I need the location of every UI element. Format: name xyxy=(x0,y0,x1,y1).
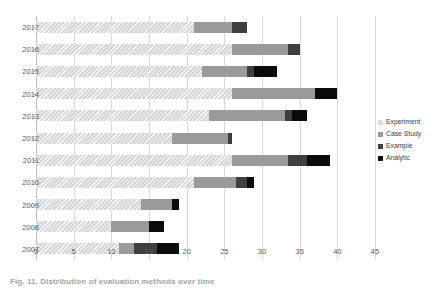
y-tick-label: 2012 xyxy=(22,134,39,143)
bar-segment-example[interactable] xyxy=(288,44,299,55)
y-tick-label: 2010 xyxy=(22,178,39,187)
bar-segment-case-study[interactable] xyxy=(194,22,232,33)
bar-segment-analytic[interactable] xyxy=(254,66,277,77)
bar-segment-analytic[interactable] xyxy=(172,199,180,210)
bar-segment-experiment[interactable] xyxy=(36,88,232,99)
bar-segment-case-study[interactable] xyxy=(111,221,149,232)
legend-item-analytic[interactable]: Analytic xyxy=(378,153,433,164)
bar-segment-experiment[interactable] xyxy=(36,199,141,210)
legend-swatch-icon xyxy=(378,120,383,125)
bar-segment-experiment[interactable] xyxy=(36,133,172,144)
gridline-x-45 xyxy=(375,16,376,260)
y-tick-label: 2017 xyxy=(22,23,39,32)
bar-segment-case-study[interactable] xyxy=(232,155,289,166)
bar-segment-example[interactable] xyxy=(288,155,307,166)
y-tick-label: 2014 xyxy=(22,89,39,98)
legend-item-experiment[interactable]: Experiment xyxy=(378,117,433,128)
x-tick-label: 35 xyxy=(295,247,303,256)
y-tick-label: 2009 xyxy=(22,200,39,209)
bar-segment-experiment[interactable] xyxy=(36,110,209,121)
bar-segment-case-study[interactable] xyxy=(209,110,284,121)
legend-item-casestudy[interactable]: Case Study xyxy=(378,129,433,140)
bar-segment-case-study[interactable] xyxy=(141,199,171,210)
bar-segment-experiment[interactable] xyxy=(36,22,194,33)
x-tick-label: 10 xyxy=(107,247,115,256)
y-tick-label: 2013 xyxy=(22,111,39,120)
bar-segment-example[interactable] xyxy=(232,22,247,33)
gridline-x-35 xyxy=(300,16,301,260)
y-tick-label: 2007 xyxy=(22,244,39,253)
bar-segment-case-study[interactable] xyxy=(172,133,229,144)
y-tick-label: 2008 xyxy=(22,222,39,231)
bar-segment-experiment[interactable] xyxy=(36,221,111,232)
x-tick-label: 15 xyxy=(145,247,153,256)
bar-segment-example[interactable] xyxy=(285,110,293,121)
legend-item-label: Case Study xyxy=(386,131,421,138)
bar-segment-analytic[interactable] xyxy=(157,243,180,254)
legend-item-example[interactable]: Example xyxy=(378,141,433,152)
bar-segment-analytic[interactable] xyxy=(247,177,255,188)
bar-segment-case-study[interactable] xyxy=(232,88,315,99)
bar-segment-analytic[interactable] xyxy=(307,155,330,166)
bar-segment-example[interactable] xyxy=(228,133,232,144)
bar-segment-experiment[interactable] xyxy=(36,66,202,77)
x-tick-label: 5 xyxy=(72,247,76,256)
legend-item-label: Experiment xyxy=(386,119,420,126)
bar-segment-case-study[interactable] xyxy=(232,44,289,55)
legend-item-label: Example xyxy=(386,143,412,150)
legend-swatch-icon xyxy=(378,132,383,137)
figure-caption: Fig. 11. Distribution of evaluation meth… xyxy=(10,277,214,286)
bar-segment-experiment[interactable] xyxy=(36,155,232,166)
bar-segment-case-study[interactable] xyxy=(202,66,247,77)
bar-segment-example[interactable] xyxy=(236,177,247,188)
bar-segment-case-study[interactable] xyxy=(194,177,235,188)
legend-swatch-icon xyxy=(378,144,383,149)
bar-segment-example[interactable] xyxy=(247,66,255,77)
legend-swatch-icon xyxy=(378,156,383,161)
x-tick-label: 30 xyxy=(258,247,266,256)
y-tick-label: 2015 xyxy=(22,67,39,76)
x-tick-label: 20 xyxy=(182,247,190,256)
plot-region xyxy=(36,16,375,260)
bar-segment-experiment[interactable] xyxy=(36,177,194,188)
bar-segment-analytic[interactable] xyxy=(315,88,338,99)
chart-area: 051015202530354045 201720162015201420132… xyxy=(0,0,380,270)
bar-segment-case-study[interactable] xyxy=(119,243,134,254)
figure-container: 051015202530354045 201720162015201420132… xyxy=(0,0,433,289)
x-tick-label: 40 xyxy=(333,247,341,256)
bar-segment-analytic[interactable] xyxy=(149,221,164,232)
bar-segment-experiment[interactable] xyxy=(36,44,232,55)
gridline-x-40 xyxy=(337,16,338,260)
y-tick-label: 2016 xyxy=(22,45,39,54)
chart-legend: ExperimentCase StudyExampleAnalytic xyxy=(378,117,433,165)
x-tick-label: 25 xyxy=(220,247,228,256)
x-tick-label: 45 xyxy=(371,247,379,256)
y-tick-label: 2011 xyxy=(23,156,39,165)
bar-segment-analytic[interactable] xyxy=(292,110,307,121)
legend-item-label: Analytic xyxy=(386,155,410,162)
